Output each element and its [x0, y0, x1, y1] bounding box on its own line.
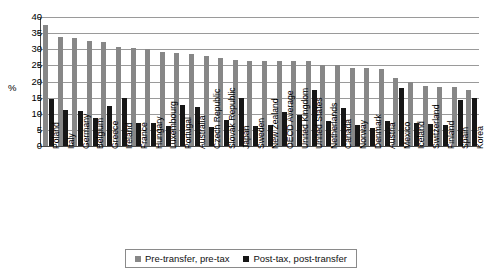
legend-item-pre-transfer: Pre-transfer, pre-tax [135, 253, 229, 264]
y-axis-tick-mark [37, 49, 41, 50]
y-axis-label: % [8, 82, 16, 93]
y-axis-tick-mark [37, 65, 41, 66]
bar-pre-transfer [43, 25, 48, 146]
bar-pre-transfer [72, 38, 77, 146]
y-axis-tick-mark [37, 17, 41, 18]
y-axis-tick-mark [37, 98, 41, 99]
legend-swatch-icon [135, 256, 141, 262]
chart-container: 4035302520151050 % PolandItalyGermanyBel… [0, 0, 490, 277]
legend-swatch-icon [243, 256, 249, 262]
y-axis-tick-mark [37, 130, 41, 131]
y-axis-tick-mark [37, 82, 41, 83]
y-axis-tick-mark [37, 114, 41, 115]
x-axis-labels: PolandItalyGermanyBelgiumGreeceIrelandFr… [41, 149, 479, 235]
legend-item-post-tax: Post-tax, post-transfer [243, 253, 346, 264]
legend-label: Post-tax, post-transfer [253, 253, 346, 264]
chart-legend: Pre-transfer, pre-tax Post-tax, post-tra… [125, 249, 357, 268]
y-axis-tick-mark [37, 146, 41, 147]
y-axis-tick-mark [37, 33, 41, 34]
legend-label: Pre-transfer, pre-tax [145, 253, 229, 264]
